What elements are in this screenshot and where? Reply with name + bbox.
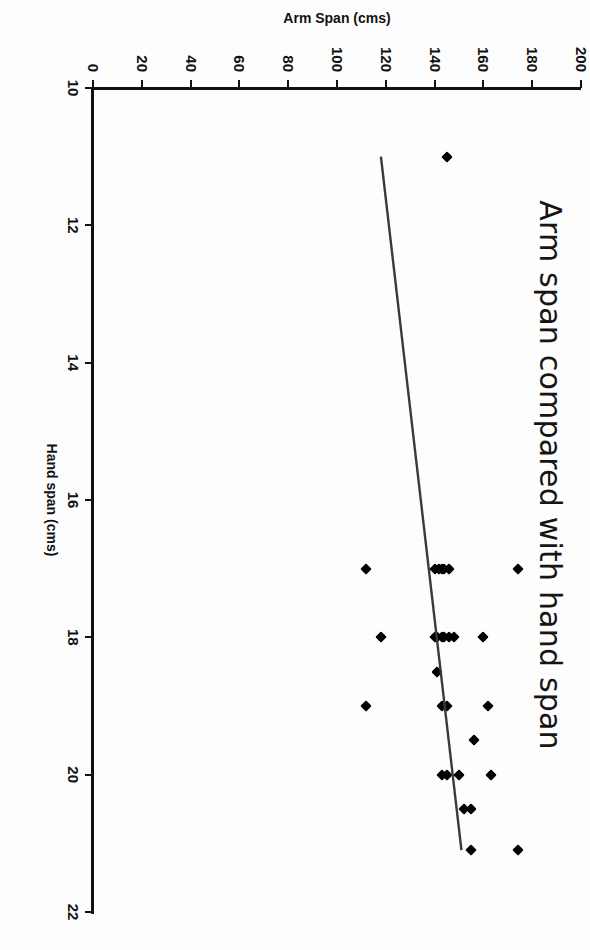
y-tick-label: 80 [280, 55, 297, 72]
y-tick [385, 80, 387, 88]
y-tick [580, 80, 582, 88]
y-tick-label: 200 [573, 47, 590, 72]
data-point [466, 845, 477, 856]
x-tick-label: 16 [65, 492, 82, 509]
chart-figure: Arm span compared with hand span 1012141… [0, 0, 590, 950]
rotated-figure-wrapper: Arm span compared with hand span 1012141… [0, 0, 590, 950]
y-tick-label: 160 [475, 47, 492, 72]
scanned-page: Arm span compared with hand span 1012141… [0, 0, 590, 950]
data-point [478, 632, 489, 643]
x-tick [85, 774, 93, 776]
x-tick [85, 224, 93, 226]
x-tick-label: 12 [65, 217, 82, 234]
x-tick [85, 499, 93, 501]
y-tick-label: 40 [182, 55, 199, 72]
trendline-layer [0, 0, 590, 950]
x-tick-label: 20 [65, 766, 82, 783]
x-tick [85, 362, 93, 364]
x-tick-label: 18 [65, 629, 82, 646]
y-axis-title: Arm Span (cms) [283, 10, 390, 26]
data-point [361, 563, 372, 574]
x-tick [85, 911, 93, 913]
y-tick-label: 0 [85, 64, 102, 72]
y-tick-label: 20 [133, 55, 150, 72]
data-point [485, 769, 496, 780]
y-tick-label: 120 [377, 47, 394, 72]
data-point [512, 845, 523, 856]
data-point [483, 700, 494, 711]
x-tick-label: 10 [65, 80, 82, 97]
data-point [441, 151, 452, 162]
y-tick [482, 80, 484, 88]
y-tick [92, 80, 94, 88]
y-tick [190, 80, 192, 88]
x-tick-label: 14 [65, 354, 82, 371]
chart-title: Arm span compared with hand span [533, 0, 568, 950]
data-point [512, 563, 523, 574]
data-point [468, 735, 479, 746]
y-tick-label: 60 [231, 55, 248, 72]
y-tick [287, 80, 289, 88]
y-tick-label: 100 [329, 47, 346, 72]
x-tick-label: 22 [65, 904, 82, 921]
data-point [453, 769, 464, 780]
y-tick [531, 80, 533, 88]
trendline [381, 157, 462, 851]
x-axis-title: Hand span (cms) [44, 444, 60, 557]
y-tick-label: 140 [426, 47, 443, 72]
data-point [361, 700, 372, 711]
y-tick [336, 80, 338, 88]
y-tick-label: 180 [524, 47, 541, 72]
y-tick [434, 80, 436, 88]
x-axis-line [92, 88, 95, 914]
data-point [375, 632, 386, 643]
data-point [431, 666, 442, 677]
y-tick [238, 80, 240, 88]
y-tick [141, 80, 143, 88]
x-tick [85, 636, 93, 638]
